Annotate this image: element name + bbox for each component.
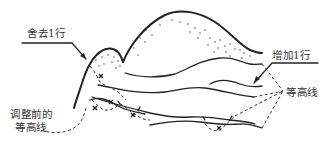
- leader-remove-row: [22, 43, 86, 59]
- leader-contour-a: [262, 64, 283, 91]
- mountain-outline-large-peak: [123, 11, 262, 62]
- leader-contour-c: [262, 91, 283, 128]
- mountain-left-slope: [74, 80, 83, 108]
- leader-contour-b: [254, 91, 283, 97]
- label-add-row: 增加1行: [272, 49, 311, 62]
- old-contour-dashed-1: [90, 66, 126, 100]
- label-contour-lines: 等高线: [286, 86, 318, 99]
- label-remove-row: 舍去1行: [27, 27, 66, 40]
- contour-line-3: [98, 85, 254, 97]
- label-before-line1: 调整前的: [8, 108, 54, 121]
- old-contour-dashed-2: [92, 100, 150, 120]
- label-before-adjustment: 调整前的 等高线: [8, 108, 54, 134]
- contour-line-1: [125, 58, 262, 77]
- mountain-outline-small-peak: [83, 49, 123, 80]
- stipple-shading: [95, 19, 250, 68]
- label-before-line2: 等高线: [8, 121, 54, 134]
